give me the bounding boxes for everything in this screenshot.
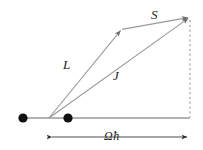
vector-label-J: J [113, 69, 119, 82]
vector-label-L: L [63, 58, 70, 71]
figure-root: L J S Ωħ [0, 0, 203, 150]
left-dot [18, 113, 27, 122]
vector-diagram [0, 0, 203, 150]
vector-label-S: S [151, 8, 158, 21]
omega-hbar-label: Ωħ [104, 130, 120, 142]
right-dot [63, 113, 72, 122]
